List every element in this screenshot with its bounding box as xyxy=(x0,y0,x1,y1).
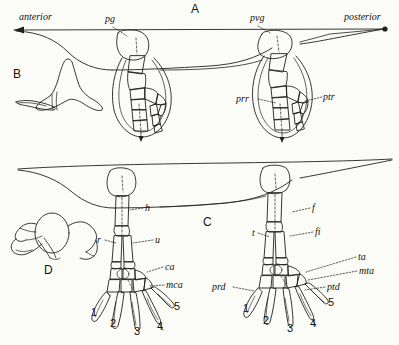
label-fi: fi xyxy=(315,226,321,237)
label-h: h xyxy=(145,202,150,213)
label-f: f xyxy=(312,202,315,213)
forelimb-digit-3: 3 xyxy=(134,325,140,337)
label-pvg: pvg xyxy=(250,12,264,23)
label-mta: mta xyxy=(359,265,374,276)
label-r: r xyxy=(97,234,101,245)
axis-label-anterior: anterior xyxy=(19,11,52,22)
pelvic-girdle-inset-D xyxy=(11,213,97,260)
anatomy-figure: A B C D anterior posterior pg pvg prr pt… xyxy=(0,0,399,345)
hindlimb-skeleton xyxy=(244,165,328,327)
panel-label-C: C xyxy=(203,215,212,229)
forelimb-digit-4: 4 xyxy=(157,320,163,332)
lower-body-outline xyxy=(18,159,392,208)
body-axis-arrow xyxy=(14,26,388,42)
label-prd: prd xyxy=(212,281,226,292)
pectoral-girdle-inset-B xyxy=(16,59,103,111)
panel-label-A: A xyxy=(191,2,199,16)
hindlimb-digit-1: 1 xyxy=(243,302,249,314)
label-ptr: ptr xyxy=(323,91,335,102)
hindlimb-flipper-right xyxy=(252,30,312,143)
label-ta: ta xyxy=(358,251,366,262)
hindlimb-digit-4: 4 xyxy=(310,317,316,329)
label-mca: mca xyxy=(166,279,183,290)
forelimb-skeleton xyxy=(92,168,174,331)
label-ca: ca xyxy=(165,261,174,272)
axis-label-posterior: posterior xyxy=(344,11,381,22)
panel-label-B: B xyxy=(13,67,21,81)
forelimb-digit-5: 5 xyxy=(174,300,180,312)
label-ptd: ptd xyxy=(327,281,340,292)
hindlimb-digit-3: 3 xyxy=(287,322,293,334)
label-pg: pg xyxy=(105,13,115,24)
label-u: u xyxy=(155,234,160,245)
forelimb-flipper-left xyxy=(112,30,171,142)
figure-linework xyxy=(0,0,399,345)
hindlimb-digit-5: 5 xyxy=(328,296,334,308)
label-prr: prr xyxy=(236,93,249,104)
upper-body-outline xyxy=(16,29,384,70)
forelimb-digit-1: 1 xyxy=(91,306,97,318)
hindlimb-digit-2: 2 xyxy=(263,314,269,326)
label-t: t xyxy=(252,227,255,238)
forelimb-digit-2: 2 xyxy=(110,317,116,329)
panel-label-D: D xyxy=(44,263,53,277)
